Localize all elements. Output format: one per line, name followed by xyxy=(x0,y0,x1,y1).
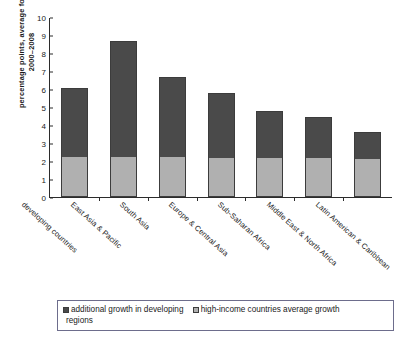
legend-item-high-income: high-income countries average growth xyxy=(193,305,340,314)
bar-segment-high-income xyxy=(354,159,381,197)
y-tick-4: 4 xyxy=(42,122,50,131)
stacked-bar[interactable] xyxy=(256,111,283,197)
x-axis-label: Sub-Saharan Africa xyxy=(216,200,272,252)
bar-chart: percentage points, average for 2000–2008… xyxy=(0,0,406,340)
y-tick-9: 9 xyxy=(42,32,50,41)
bar-segment-additional-growth xyxy=(256,111,283,159)
bar-segment-additional-growth xyxy=(159,77,186,156)
stacked-bar[interactable] xyxy=(159,77,186,197)
y-tick-10: 10 xyxy=(37,14,50,23)
legend-swatch-light xyxy=(193,307,199,313)
stacked-bar[interactable] xyxy=(208,93,235,197)
bar-segment-additional-growth xyxy=(110,41,137,157)
y-tick-3: 3 xyxy=(42,140,50,149)
y-tick-8: 8 xyxy=(42,50,50,59)
bar-slot xyxy=(343,18,392,197)
bar-segment-additional-growth xyxy=(208,93,235,159)
stacked-bar[interactable] xyxy=(305,117,332,197)
y-axis-title: percentage points, average for 2000–2008 xyxy=(17,0,37,132)
legend-label-additional-growth: additional growth in developing xyxy=(71,305,183,314)
y-tick-7: 7 xyxy=(42,68,50,77)
y-tick-5: 5 xyxy=(42,104,50,113)
bar-slot xyxy=(197,18,246,197)
legend-label-additional-growth-wrap: regions xyxy=(66,315,388,326)
bar-segment-additional-growth xyxy=(61,88,88,156)
legend-swatch-dark xyxy=(63,307,69,313)
x-axis-labels: developing countriesEast Asia & PacificS… xyxy=(49,200,392,292)
y-tick-2: 2 xyxy=(42,158,50,167)
bar-slot xyxy=(294,18,343,197)
bar-slot xyxy=(50,18,99,197)
legend-item-additional-growth: additional growth in developing xyxy=(63,305,186,314)
bar-segment-high-income xyxy=(61,157,88,198)
bar-segment-additional-growth xyxy=(305,117,332,158)
stacked-bar[interactable] xyxy=(354,132,381,197)
bar-segment-high-income xyxy=(256,158,283,197)
bar-slot xyxy=(148,18,197,197)
legend-label-high-income: high-income countries average growth xyxy=(201,305,340,314)
bar-segment-high-income xyxy=(110,157,137,197)
plot-area: 109876543210 xyxy=(49,18,392,198)
bar-segment-high-income xyxy=(208,158,235,197)
bar-slot xyxy=(99,18,148,197)
x-axis-label: East Asia & Pacific xyxy=(69,200,123,250)
bar-segment-high-income xyxy=(159,157,186,198)
chart-legend: additional growth in developing high-inc… xyxy=(57,300,394,331)
y-tick-6: 6 xyxy=(42,86,50,95)
stacked-bar[interactable] xyxy=(110,41,137,197)
bar-segment-high-income xyxy=(305,158,332,197)
bar-slot xyxy=(245,18,294,197)
bar-segment-additional-growth xyxy=(354,132,381,159)
y-tick-1: 1 xyxy=(42,176,50,185)
bars-container xyxy=(50,18,392,197)
x-axis-label: South Asia xyxy=(118,200,152,232)
stacked-bar[interactable] xyxy=(61,88,88,197)
